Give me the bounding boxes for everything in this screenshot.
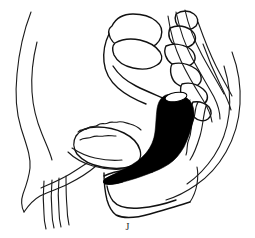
- figure-caption: J: [0, 222, 255, 232]
- anatomy-diagram: [0, 0, 255, 238]
- figure-root: J: [0, 0, 255, 238]
